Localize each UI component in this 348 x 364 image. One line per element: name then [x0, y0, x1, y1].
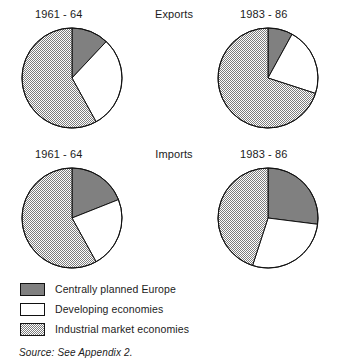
year-label-exports-right: 1983 - 86 [240, 8, 287, 21]
legend-swatch-white [20, 303, 45, 316]
legend-swatch-solid-gray [20, 283, 45, 296]
year-label-imports-left: 1961 - 64 [35, 148, 82, 161]
legend-label: Industrial market economies [55, 323, 189, 336]
legend-item-developing-economies[interactable]: Developing economies [20, 299, 250, 319]
chart-row-exports: 1961 - 64 Exports 1983 - 86 [0, 8, 348, 148]
year-label-exports-left: 1961 - 64 [35, 8, 82, 21]
row-title-exports: Exports [124, 8, 224, 21]
pie-svg [216, 166, 320, 270]
row-title-imports: Imports [124, 148, 224, 161]
pie-chart-imports-1961-64[interactable] [20, 166, 124, 270]
chart-row-imports: 1961 - 64 Imports 1983 - 86 [0, 148, 348, 288]
pie-chart-exports-1961-64[interactable] [20, 26, 124, 130]
pie-chart-imports-1983-86[interactable] [216, 166, 320, 270]
pie-svg [20, 166, 124, 270]
legend-item-industrial-market-economies[interactable]: Industrial market economies [20, 319, 250, 339]
legend-label: Developing economies [55, 303, 163, 316]
pie-chart-exports-1983-86[interactable] [216, 26, 320, 130]
source-note: Source: See Appendix 2. [19, 347, 133, 359]
chart-legend: Centrally planned Europe Developing econ… [20, 279, 250, 339]
pie-svg [20, 26, 124, 130]
pie-chart-grid: 1961 - 64 Exports 1983 - 86 1961 - 64 Im… [0, 0, 348, 280]
pie-slice[interactable] [268, 168, 318, 224]
legend-label: Centrally planned Europe [55, 283, 176, 296]
year-label-imports-right: 1983 - 86 [240, 148, 287, 161]
legend-item-centrally-planned-europe[interactable]: Centrally planned Europe [20, 279, 250, 299]
pie-svg [216, 26, 320, 130]
legend-swatch-hatched [20, 323, 45, 336]
